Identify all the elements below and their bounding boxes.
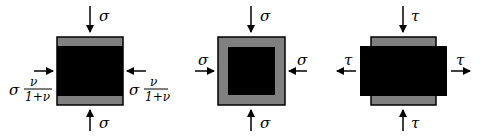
label-right-sigma: σ	[129, 81, 140, 99]
label-top: σ	[260, 7, 271, 25]
label-right-den: 1+ν	[145, 90, 170, 104]
label-top: σ	[99, 7, 110, 25]
label-bottom: σ	[260, 114, 271, 132]
element-black-core	[360, 46, 447, 96]
label-left: σ	[198, 51, 209, 69]
label-bottom: τ	[411, 114, 420, 132]
panel-hydrostatic: σ σ σ σ	[195, 6, 308, 132]
label-right: τ	[456, 51, 465, 69]
label-left-num: ν	[30, 75, 37, 89]
label-right-num: ν	[150, 75, 157, 89]
element-black-core	[57, 46, 123, 96]
label-right: σ	[297, 51, 308, 69]
label-left: τ	[344, 51, 353, 69]
label-top: τ	[411, 7, 420, 25]
label-bottom: σ	[99, 114, 110, 132]
panel-shear: τ τ τ τ	[337, 6, 470, 132]
panel-uniaxial-confined: σ σ σ ν 1+ν σ ν 1+ν	[9, 6, 170, 132]
label-left-den: 1+ν	[25, 90, 50, 104]
stress-diagram: σ σ σ ν 1+ν σ ν 1+ν σ σ σ σ τ τ τ τ	[0, 0, 482, 137]
element-black-core	[228, 47, 275, 95]
label-left-sigma: σ	[9, 81, 20, 99]
